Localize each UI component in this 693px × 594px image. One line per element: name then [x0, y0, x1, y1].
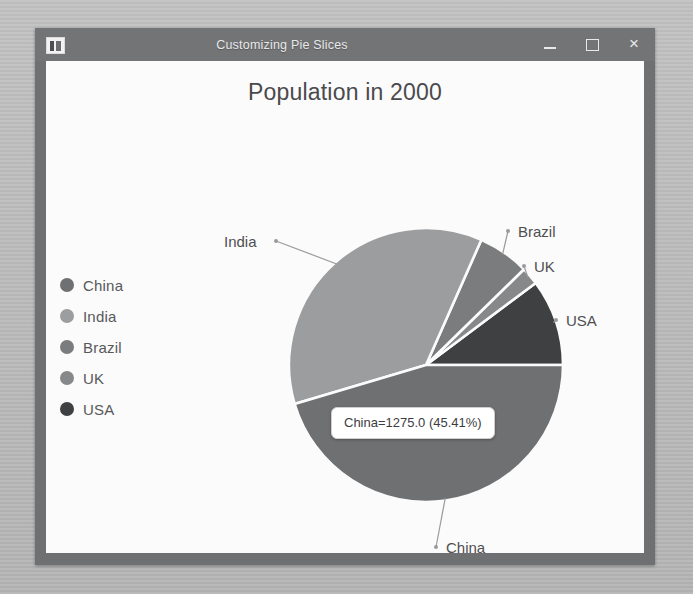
app-icon [46, 37, 65, 54]
legend-item-label: China [83, 277, 123, 294]
leader-endpoint-icon [434, 545, 438, 549]
app-icon-glyph [50, 41, 61, 51]
legend-item-label: India [83, 308, 117, 325]
legend-swatch-icon [60, 402, 74, 416]
maximize-icon [586, 39, 599, 51]
slice-label-uk: UK [534, 258, 555, 275]
legend-item-brazil[interactable]: Brazil [60, 335, 123, 359]
slice-label-brazil: Brazil [518, 223, 556, 240]
slice-label-india: India [224, 233, 257, 250]
leader-line-china [436, 498, 445, 547]
legend-swatch-icon [60, 278, 74, 292]
legend-swatch-icon [60, 309, 74, 323]
minimize-icon [544, 47, 556, 49]
application-window: Customizing Pie Slices × Population in 2… [35, 28, 655, 565]
minimize-button[interactable] [529, 28, 571, 61]
legend-item-label: UK [83, 370, 104, 387]
legend-item-china[interactable]: China [60, 273, 123, 297]
legend-item-label: Brazil [83, 339, 122, 356]
close-icon: × [629, 35, 639, 52]
data-tooltip: China=1275.0 (45.41%) [331, 407, 495, 439]
leader-line-brazil [503, 231, 508, 255]
leader-endpoint-icon [554, 318, 558, 322]
pie-chart-svg [46, 61, 644, 553]
window-title: Customizing Pie Slices [35, 38, 529, 52]
close-button[interactable]: × [613, 28, 655, 61]
legend-swatch-icon [60, 371, 74, 385]
legend-item-uk[interactable]: UK [60, 366, 123, 390]
legend-swatch-icon [60, 340, 74, 354]
slice-label-china: China [446, 539, 485, 553]
leader-endpoint-icon [522, 264, 526, 268]
window-title-bar[interactable]: Customizing Pie Slices × [35, 28, 655, 61]
chart-canvas: Population in 2000 ChinaIndiaBrazilUKUSA… [46, 61, 644, 553]
maximize-button[interactable] [571, 28, 613, 61]
leader-line-india [276, 241, 337, 264]
legend-item-label: USA [83, 401, 114, 418]
pie-slice-group [289, 228, 563, 502]
legend-item-usa[interactable]: USA [60, 397, 123, 421]
chart-legend: ChinaIndiaBrazilUKUSA [60, 273, 123, 428]
slice-label-usa: USA [566, 312, 597, 329]
leader-endpoint-icon [274, 239, 278, 243]
leader-endpoint-icon [506, 229, 510, 233]
legend-item-india[interactable]: India [60, 304, 123, 328]
